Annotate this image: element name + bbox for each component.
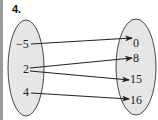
range-value-0: 0 (133, 36, 139, 50)
problem-number: 4. (12, 3, 21, 15)
mapping-diagram: 4. −5 2 4 0 8 15 16 (0, 0, 158, 120)
arrow-4-to-16 (31, 93, 129, 99)
arrow-neg5-to-0 (31, 38, 132, 44)
range-value-16: 16 (130, 93, 142, 107)
domain-value-neg5: −5 (16, 37, 29, 51)
arrow-2-to-15 (30, 71, 129, 80)
range-value-8: 8 (133, 51, 139, 65)
domain-value-2: 2 (23, 62, 29, 76)
range-value-15: 15 (130, 72, 142, 86)
domain-value-4: 4 (23, 85, 29, 99)
